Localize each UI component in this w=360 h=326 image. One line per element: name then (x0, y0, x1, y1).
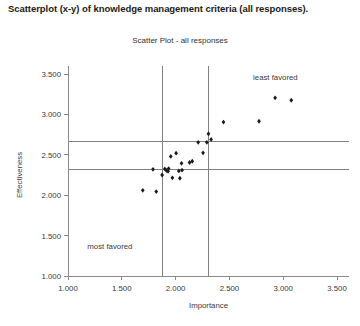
x-axis-tick-label: 3.500 (327, 284, 347, 293)
y-axis-title: Effectiveness (15, 152, 24, 198)
data-point-marker (141, 188, 145, 193)
data-point-marker (201, 150, 205, 155)
x-axis-tick-label: 2.000 (166, 284, 186, 293)
y-axis-tick-label: 1.500 (41, 232, 61, 241)
y-axis-tick-label: 3.500 (41, 70, 61, 79)
x-axis-tick-label: 3.000 (273, 284, 293, 293)
x-axis-tick-label: 2.500 (220, 284, 240, 293)
data-point-marker (180, 168, 184, 173)
quadrant-annotation: most favored (87, 242, 132, 251)
scatter-chart-figure: Scatter Plot - all responses 1.0001.5002… (0, 24, 360, 326)
data-point-marker (178, 176, 182, 181)
data-point-marker (160, 173, 164, 178)
data-point-marker (205, 140, 209, 145)
quadrant-annotation: least favored (253, 73, 298, 82)
data-point-marker (151, 167, 155, 172)
x-axis-title: Importance (189, 301, 228, 310)
figure-caption: Scatterplot (x-y) of knowledge managemen… (8, 3, 352, 15)
data-point-marker (154, 189, 158, 194)
data-point-marker (174, 151, 178, 156)
data-point-marker (273, 95, 277, 100)
data-point-marker (180, 161, 184, 166)
data-point-marker (196, 140, 200, 145)
y-axis-tick-label: 2.500 (41, 151, 61, 160)
y-axis-tick-label: 1.000 (41, 272, 61, 281)
data-point-marker (207, 131, 211, 136)
data-point-marker (289, 98, 293, 103)
data-point-marker (257, 119, 261, 124)
y-axis-tick-label: 3.000 (41, 110, 61, 119)
data-point-marker (169, 154, 173, 159)
x-axis-tick-label: 1.500 (112, 284, 132, 293)
data-point-marker (222, 120, 226, 125)
scatter-plot-svg: 1.0001.5002.0002.5003.0003.5001.0001.500… (0, 24, 360, 326)
x-axis-tick-label: 1.000 (58, 284, 78, 293)
data-point-marker (171, 175, 175, 180)
y-axis-tick-label: 2.000 (41, 191, 61, 200)
